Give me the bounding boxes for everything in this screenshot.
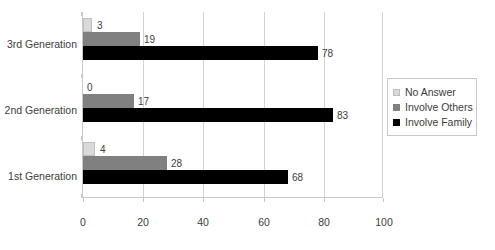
bar-value-2nd-generation-no-answer: 0 (87, 82, 93, 93)
legend-label-no-answer: No Answer (405, 86, 456, 98)
x-axis-label-40: 40 (183, 216, 223, 228)
bar-1st-generation-no-answer[interactable] (83, 142, 95, 156)
x-axis-tick-100 (383, 198, 384, 202)
bar-chart: 3rd Generation 2nd Generation 1st Genera… (0, 0, 495, 250)
bar-group-1st-generation: 4 28 68 (83, 136, 382, 198)
bar-value-2nd-generation-involve-others: 17 (138, 96, 149, 107)
bar-1st-generation-involve-others[interactable] (83, 156, 167, 170)
y-axis-label-1st-generation: 1st Generation (0, 170, 77, 182)
bar-3rd-generation-involve-family[interactable] (83, 46, 318, 60)
bar-value-3rd-generation-involve-others: 19 (144, 34, 155, 45)
legend-swatch-icon-no-answer (393, 89, 400, 96)
y-axis-tick-2 (81, 136, 82, 140)
bar-value-3rd-generation-involve-family: 78 (322, 48, 333, 59)
bar-value-3rd-generation-no-answer: 3 (97, 20, 103, 31)
x-axis-label-100: 100 (364, 216, 404, 228)
x-axis-tick-80 (324, 198, 325, 202)
legend-item-involve-others[interactable]: Involve Others (393, 100, 472, 114)
x-axis-tick-60 (264, 198, 265, 202)
bar-3rd-generation-no-answer[interactable] (83, 18, 92, 32)
bar-value-2nd-generation-involve-family: 83 (337, 110, 348, 121)
x-axis-tick-40 (203, 198, 204, 202)
legend-item-no-answer[interactable]: No Answer (393, 85, 472, 99)
x-axis-tick-0 (83, 198, 84, 202)
y-axis-label-2nd-generation: 2nd Generation (0, 104, 77, 116)
bar-group-3rd-generation: 3 19 78 (83, 12, 382, 74)
legend-label-involve-others: Involve Others (405, 101, 473, 113)
y-axis-label-3rd-generation: 3rd Generation (0, 38, 77, 50)
bar-value-1st-generation-involve-family: 68 (292, 172, 303, 183)
legend-swatch-icon-involve-others (393, 104, 400, 111)
bar-1st-generation-involve-family[interactable] (83, 170, 288, 184)
legend-label-involve-family: Involve Family (405, 116, 472, 128)
bar-value-1st-generation-involve-others: 28 (171, 158, 182, 169)
bar-value-1st-generation-no-answer: 4 (100, 144, 106, 155)
x-axis-label-0: 0 (63, 216, 103, 228)
y-axis-tick-top (81, 12, 82, 16)
x-axis-label-60: 60 (244, 216, 284, 228)
x-axis-label-80: 80 (304, 216, 344, 228)
bar-2nd-generation-involve-others[interactable] (83, 94, 134, 108)
legend: No Answer Involve Others Involve Family (387, 78, 477, 136)
y-axis-tick-1 (81, 74, 82, 78)
bar-3rd-generation-involve-others[interactable] (83, 32, 140, 46)
y-axis-tick-bottom (81, 194, 82, 198)
legend-item-involve-family[interactable]: Involve Family (393, 115, 472, 129)
bar-group-2nd-generation: 0 17 83 (83, 74, 382, 136)
x-axis-tick-20 (143, 198, 144, 202)
bar-2nd-generation-involve-family[interactable] (83, 108, 333, 122)
plot-area: 3 19 78 0 17 83 (82, 12, 383, 198)
x-axis-label-20: 20 (123, 216, 163, 228)
legend-swatch-icon-involve-family (393, 119, 400, 126)
